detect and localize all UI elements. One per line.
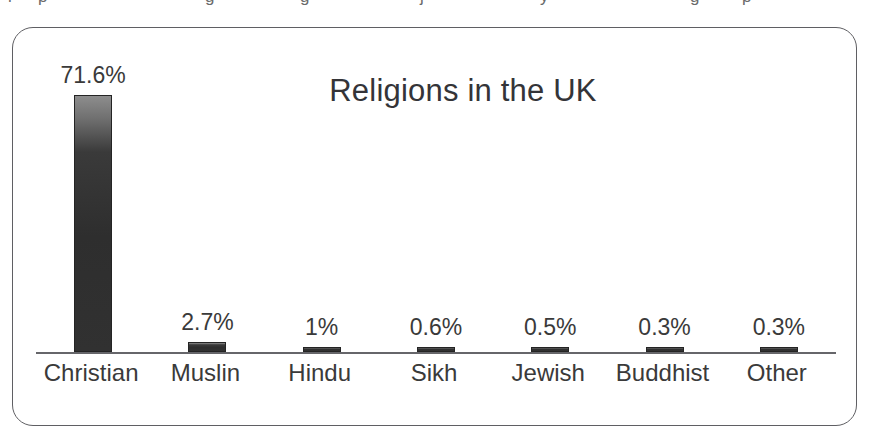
x-axis-label: Sikh xyxy=(377,359,491,387)
x-axis-label: Muslin xyxy=(148,359,262,387)
x-axis-label: Other xyxy=(720,359,834,387)
bar-chart: Religions in the UK 71.6%2.7%1%0.6%0.5%0… xyxy=(13,28,858,427)
bar xyxy=(188,342,226,352)
scan-fragment: y xyxy=(540,0,549,7)
bar-group: 0.6% xyxy=(379,58,493,352)
x-axis-label: Hindu xyxy=(263,359,377,387)
bar-value-label: 2.7% xyxy=(181,309,233,336)
x-axis-label: Christian xyxy=(34,359,148,387)
scan-fragment: l xyxy=(8,0,12,7)
x-axis-label: Jewish xyxy=(491,359,605,387)
scan-fragment: p xyxy=(38,0,47,7)
scan-fragment: p xyxy=(742,0,751,7)
bar-group: 0.5% xyxy=(493,58,607,352)
bar-group: 1% xyxy=(265,58,379,352)
bar-group: 71.6% xyxy=(36,58,150,352)
chart-frame: Religions in the UK 71.6%2.7%1%0.6%0.5%0… xyxy=(12,27,857,426)
bar-value-label: 0.6% xyxy=(410,314,462,341)
bar-value-label: 71.6% xyxy=(61,62,126,89)
scan-fragment: g xyxy=(690,0,699,7)
bar-value-label: 0.3% xyxy=(753,314,805,341)
scan-artifact-top-text: lpggjygp xyxy=(0,0,870,9)
plot-area: 71.6%2.7%1%0.6%0.5%0.3%0.3% xyxy=(36,58,836,352)
bar-group: 0.3% xyxy=(607,58,721,352)
bar-value-label: 0.3% xyxy=(638,314,690,341)
scan-fragment: g xyxy=(205,0,214,7)
bar-group: 2.7% xyxy=(150,58,264,352)
x-axis-category-labels: ChristianMuslinHinduSikhJewishBuddhistOt… xyxy=(36,359,836,399)
x-axis-label: Buddhist xyxy=(605,359,719,387)
x-axis-line xyxy=(36,352,836,354)
scan-fragment: j xyxy=(420,0,424,7)
bar-group: 0.3% xyxy=(722,58,836,352)
scan-fragment: g xyxy=(300,0,309,7)
bar xyxy=(74,95,112,352)
bar-value-label: 0.5% xyxy=(524,314,576,341)
bar-value-label: 1% xyxy=(305,314,338,341)
